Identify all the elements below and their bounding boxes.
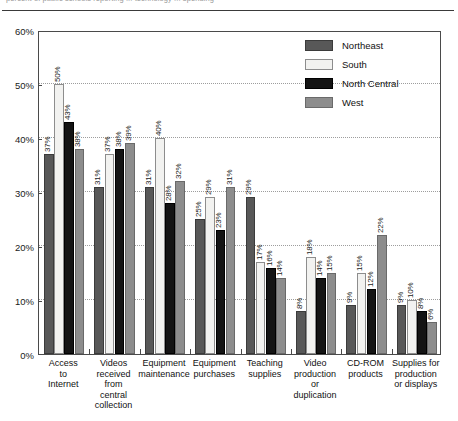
bar: 40% [155, 138, 165, 354]
legend-swatch-icon [305, 97, 333, 108]
y-axis-tick-label: 40% [0, 134, 34, 145]
bar-value-label: 9% [345, 292, 354, 303]
bar: 9% [346, 305, 356, 354]
bar: 31% [94, 187, 104, 354]
legend-item: South [305, 55, 433, 74]
bar: 6% [427, 322, 437, 354]
bar-value-label: 18% [305, 239, 314, 254]
x-axis-group-tick [392, 349, 393, 354]
clipped-header-text: percent of public schools reporting ... … [6, 0, 214, 3]
y-axis-tick-label: 30% [0, 188, 34, 199]
bar-group: 29%17%16%14% [241, 32, 291, 354]
bar: 38% [115, 149, 125, 354]
bar: 50% [54, 84, 64, 354]
bar: 37% [44, 154, 54, 354]
bar-value-label: 50% [53, 67, 62, 82]
bar: 12% [367, 289, 377, 354]
bar-value-label: 15% [356, 256, 365, 271]
bar: 31% [145, 187, 155, 354]
bar-value-label: 38% [74, 131, 83, 146]
legend-item-label: West [342, 97, 363, 108]
bar: 25% [195, 219, 205, 354]
legend-item-label: Northeast [342, 40, 383, 51]
bar-value-label: 40% [154, 121, 163, 136]
bar-group: 37%50%43%38% [39, 32, 89, 354]
y-axis-tick-label: 50% [0, 80, 34, 91]
bar: 28% [165, 203, 175, 354]
y-axis-tick-label: 10% [0, 296, 34, 307]
bar: 32% [175, 181, 185, 354]
bar-value-label: 32% [174, 164, 183, 179]
bar: 43% [64, 122, 74, 354]
bar-value-label: 29% [245, 180, 254, 195]
bar-value-label: 23% [215, 212, 224, 227]
x-axis-group-tick [89, 349, 90, 354]
x-axis-category-label: Video production or duplication [287, 358, 343, 400]
y-axis-tick-label: 60% [0, 26, 34, 37]
legend-swatch-icon [305, 40, 333, 51]
x-axis-category-label: Access to Internet [35, 358, 91, 390]
bar: 14% [276, 278, 286, 354]
bar-value-label: 15% [326, 256, 335, 271]
bar-value-label: 9% [396, 292, 405, 303]
bar-value-label: 25% [194, 202, 203, 217]
bar-group: 31%37%38%39% [89, 32, 139, 354]
x-axis-category-label: Teaching supplies [237, 358, 293, 379]
x-axis-category-label: CD-ROM products [337, 358, 393, 379]
bar-value-label: 12% [366, 272, 375, 287]
bar: 31% [226, 187, 236, 354]
bar-value-label: 22% [376, 218, 385, 233]
bar-value-label: 14% [315, 261, 324, 276]
bar-value-label: 8% [295, 298, 304, 309]
legend-item-label: North Central [342, 78, 399, 89]
bar-value-label: 8% [416, 298, 425, 309]
bar-value-label: 43% [63, 104, 72, 119]
y-axis-tick-mark [38, 247, 42, 248]
bar: 15% [327, 273, 337, 354]
bar: 17% [256, 262, 266, 354]
legend-item-label: South [342, 59, 367, 70]
y-axis-tick-mark [38, 85, 42, 86]
bar: 29% [246, 197, 256, 354]
bar-value-label: 37% [43, 137, 52, 152]
bar-value-label: 28% [164, 185, 173, 200]
bar-value-label: 17% [255, 245, 264, 260]
x-axis-group-tick [291, 349, 292, 354]
bar-group: 31%40%28%32% [140, 32, 190, 354]
bar-value-label: 37% [104, 137, 113, 152]
bar-group: 25%29%23%31% [190, 32, 240, 354]
bar-value-label: 31% [93, 169, 102, 184]
legend-item: West [305, 93, 433, 112]
bar: 10% [407, 300, 417, 354]
legend-item: North Central [305, 74, 433, 93]
y-axis-tick-mark [38, 139, 42, 140]
y-axis-tick-mark [38, 193, 42, 194]
legend-swatch-icon [305, 59, 333, 70]
legend-swatch-icon [305, 78, 333, 89]
bar: 9% [397, 305, 407, 354]
x-axis-labels: Access to InternetVideos received from c… [38, 358, 441, 420]
bar: 38% [75, 149, 85, 354]
bar: 15% [357, 273, 367, 354]
bar-value-label: 6% [426, 308, 435, 319]
bar: 8% [296, 311, 306, 354]
bar: 14% [316, 278, 326, 354]
x-axis-category-label: Supplies for production or displays [388, 358, 444, 390]
bar-value-label: 31% [225, 169, 234, 184]
y-axis-tick-mark [38, 301, 42, 302]
bar: 22% [377, 235, 387, 354]
legend-item: Northeast [305, 36, 433, 55]
x-axis-group-tick [140, 349, 141, 354]
chart-legend: NortheastSouthNorth CentralWest [305, 36, 433, 112]
bar-value-label: 39% [124, 126, 133, 141]
x-axis-category-label: Videos received from central collection [85, 358, 141, 411]
bar: 23% [216, 230, 226, 354]
bar: 39% [125, 143, 135, 354]
x-axis-group-tick [341, 349, 342, 354]
x-axis-category-label: Equipment maintenance [136, 358, 192, 379]
y-axis-tick-label: 20% [0, 242, 34, 253]
bar-value-label: 31% [144, 169, 153, 184]
header-divider-rule [2, 10, 454, 11]
x-axis-category-label: Equipment purchases [186, 358, 242, 379]
x-axis-group-tick [190, 349, 191, 354]
